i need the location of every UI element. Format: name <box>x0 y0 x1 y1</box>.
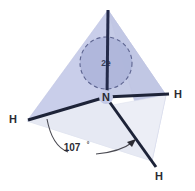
lone-pair-bond-up-icon <box>107 10 108 97</box>
hydrogen-label-front: H <box>155 170 163 182</box>
central-atom-group: N <box>99 90 113 104</box>
hydrogen-label-left: H <box>9 113 17 125</box>
bond-angle-degree-symbol: ° <box>87 141 90 148</box>
figure-canvas: 2e N H H H 107 ° <box>0 0 195 191</box>
central-atom-label: N <box>102 91 110 103</box>
hydrogen-label-right: H <box>174 88 182 100</box>
bond-angle-value: 107 <box>64 142 81 153</box>
ammonia-geometry-diagram: 2e N H H H 107 ° <box>0 0 195 191</box>
